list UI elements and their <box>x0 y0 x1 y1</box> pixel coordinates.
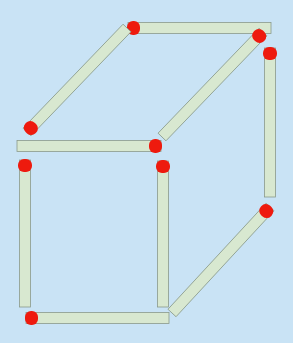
match-head-icon <box>25 311 38 325</box>
match-stick <box>265 48 276 197</box>
match-stick <box>17 141 161 152</box>
match-stick <box>158 28 267 141</box>
match-bottom-horizontal <box>25 311 169 325</box>
match-left-vertical <box>18 159 32 307</box>
match-upper-left-diagonal <box>21 23 132 137</box>
match-stick <box>20 160 31 307</box>
match-stick <box>26 313 169 324</box>
match-head-icon <box>18 159 32 172</box>
match-upper-right-diagonal <box>157 26 269 141</box>
match-stick <box>128 23 271 34</box>
match-head-icon <box>149 139 162 153</box>
match-stick <box>158 161 169 307</box>
puzzle-canvas <box>0 0 293 343</box>
match-top-horizontal <box>127 21 271 35</box>
match-head-icon <box>156 160 170 173</box>
match-middle-vertical <box>156 160 170 307</box>
matchstick-puzzle: Matchstick cube <box>0 0 293 343</box>
match-stick <box>23 24 131 136</box>
match-head-icon <box>263 47 277 60</box>
match-lower-right-diagonal <box>167 202 276 318</box>
match-right-vertical <box>263 47 277 197</box>
match-stick <box>168 203 274 316</box>
match-middle-horizontal <box>17 139 162 153</box>
